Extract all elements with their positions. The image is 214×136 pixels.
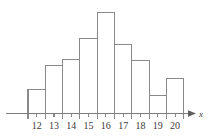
histogram-bar — [63, 60, 80, 114]
x-axis-tick-label: 14 — [66, 120, 76, 131]
x-axis-tick-label: 19 — [153, 120, 163, 131]
x-axis-arrow-icon — [188, 110, 196, 117]
bars-group — [28, 13, 184, 114]
x-axis-tick-label: 17 — [118, 120, 128, 131]
x-axis-ticks — [28, 114, 184, 119]
histogram-bar — [132, 61, 149, 114]
x-axis-tick-labels: 121314151617181920 — [32, 120, 180, 131]
x-axis-tick-label: 12 — [32, 120, 42, 131]
histogram-bar — [45, 66, 62, 114]
histogram-bar — [166, 79, 183, 114]
x-axis-tick-label: 13 — [49, 120, 59, 131]
x-axis-label: x — [198, 109, 203, 119]
histogram-bar — [149, 96, 166, 114]
x-axis-tick-label: 15 — [84, 120, 94, 131]
x-axis-tick-label: 20 — [170, 120, 180, 131]
histogram-canvas: 121314151617181920 x — [0, 0, 214, 136]
histogram-bar — [80, 39, 97, 114]
x-axis-tick-label: 18 — [135, 120, 145, 131]
x-axis-tick-label: 16 — [101, 120, 111, 131]
histogram-figure: 121314151617181920 x — [0, 0, 214, 136]
histogram-bar — [28, 90, 45, 114]
histogram-bar — [97, 13, 114, 114]
histogram-bar — [115, 45, 132, 114]
